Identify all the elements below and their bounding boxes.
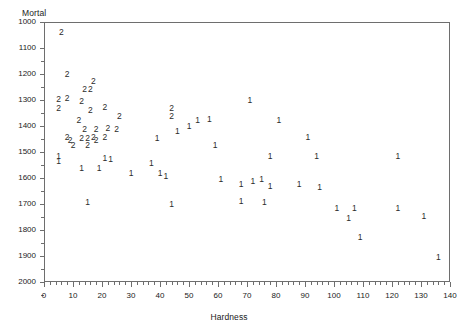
y-tick-mark-minor xyxy=(41,269,44,270)
x-tick-mark xyxy=(102,282,103,287)
x-tick-label: 130 xyxy=(406,291,436,300)
data-point-marker: 1 xyxy=(335,203,340,212)
y-tick-label: 1700 xyxy=(4,199,36,208)
x-axis-title: Hardness xyxy=(0,312,458,322)
data-point-marker: 1 xyxy=(219,175,224,184)
data-point-marker: 2 xyxy=(79,97,84,106)
data-point-marker: 1 xyxy=(79,163,84,172)
x-tick-mark-minor xyxy=(288,282,289,285)
data-point-marker: 2 xyxy=(65,93,70,102)
data-point-marker: 1 xyxy=(259,175,264,184)
data-point-marker: 1 xyxy=(268,152,273,161)
y-tick-mark xyxy=(40,204,44,205)
data-point-marker: 2 xyxy=(79,133,84,142)
x-tick-mark-minor xyxy=(90,282,91,285)
data-point-marker: 2 xyxy=(117,111,122,120)
x-tick-mark xyxy=(392,282,393,287)
x-tick-mark-minor xyxy=(404,282,405,285)
x-tick-label: 120 xyxy=(377,291,407,300)
data-point-marker: 1 xyxy=(103,154,108,163)
x-tick-mark-minor xyxy=(85,282,86,285)
data-point-marker: 1 xyxy=(314,152,319,161)
x-tick-mark xyxy=(218,282,219,287)
data-point-marker: 1 xyxy=(395,203,400,212)
x-tick-mark-minor xyxy=(311,282,312,285)
x-tick-label: 40 xyxy=(145,291,175,300)
y-tick-mark-minor xyxy=(41,243,44,244)
data-point-marker: 1 xyxy=(149,159,154,168)
x-tick-mark-minor xyxy=(444,282,445,285)
data-point-marker: 1 xyxy=(352,204,357,213)
x-tick-mark xyxy=(44,282,45,287)
data-point-marker: 1 xyxy=(248,96,253,105)
x-tick-mark-minor xyxy=(369,282,370,285)
x-tick-mark-minor xyxy=(299,282,300,285)
x-tick-mark xyxy=(421,282,422,287)
y-tick-label: 1400 xyxy=(4,121,36,130)
x-tick-mark-minor xyxy=(357,282,358,285)
x-tick-label: 0 xyxy=(29,291,59,300)
data-point-marker: 2 xyxy=(103,103,108,112)
y-tick-mark xyxy=(40,22,44,23)
data-point-marker: 2 xyxy=(94,136,99,145)
x-tick-mark-minor xyxy=(148,282,149,285)
x-tick-label: 30 xyxy=(116,291,146,300)
data-point-marker: 1 xyxy=(277,115,282,124)
data-point-marker: 1 xyxy=(169,200,174,209)
x-tick-label: 50 xyxy=(174,291,204,300)
y-tick-mark xyxy=(40,256,44,257)
data-point-marker: 1 xyxy=(306,133,311,142)
data-point-marker: 1 xyxy=(239,197,244,206)
x-tick-mark-minor xyxy=(415,282,416,285)
y-tick-label: 1500 xyxy=(4,147,36,156)
y-tick-mark xyxy=(40,74,44,75)
x-tick-mark-minor xyxy=(380,282,381,285)
x-tick-label: 10 xyxy=(58,291,88,300)
data-point-marker: 1 xyxy=(422,212,427,221)
data-point-marker: 1 xyxy=(297,179,302,188)
y-tick-label: 1900 xyxy=(4,251,36,260)
y-tick-mark xyxy=(40,100,44,101)
data-point-marker: 1 xyxy=(195,115,200,124)
y-tick-label: 1100 xyxy=(4,43,36,52)
data-point-marker: 1 xyxy=(108,154,113,163)
data-point-marker: 1 xyxy=(56,157,61,166)
x-tick-mark-minor xyxy=(67,282,68,285)
x-tick-mark-minor xyxy=(79,282,80,285)
data-point-marker: 1 xyxy=(395,151,400,160)
x-tick-mark-minor xyxy=(340,282,341,285)
x-tick-mark-minor xyxy=(212,282,213,285)
x-tick-mark-minor xyxy=(96,282,97,285)
x-tick-mark-minor xyxy=(137,282,138,285)
x-tick-mark-minor xyxy=(346,282,347,285)
x-tick-mark-minor xyxy=(438,282,439,285)
y-tick-label: 2000 xyxy=(4,277,36,286)
x-tick-mark xyxy=(73,282,74,287)
x-tick-mark-minor xyxy=(172,282,173,285)
x-tick-mark xyxy=(450,282,451,287)
x-tick-mark-minor xyxy=(125,282,126,285)
y-tick-mark-minor xyxy=(41,61,44,62)
x-tick-label: 80 xyxy=(261,291,291,300)
data-point-marker: 2 xyxy=(76,115,81,124)
data-point-marker: 1 xyxy=(262,198,267,207)
x-tick-mark-minor xyxy=(166,282,167,285)
x-tick-mark-minor xyxy=(235,282,236,285)
data-point-marker: 1 xyxy=(268,182,273,191)
data-point-marker: 2 xyxy=(65,70,70,79)
x-tick-label: 20 xyxy=(87,291,117,300)
y-tick-mark xyxy=(40,152,44,153)
data-point-marker: 2 xyxy=(71,141,76,150)
x-tick-mark-minor xyxy=(224,282,225,285)
x-tick-mark-minor xyxy=(409,282,410,285)
y-tick-label: 1000 xyxy=(4,17,36,26)
y-tick-mark-minor xyxy=(41,165,44,166)
data-point-marker: 1 xyxy=(97,163,102,172)
x-tick-mark xyxy=(247,282,248,287)
x-tick-mark-minor xyxy=(293,282,294,285)
data-point-marker: 1 xyxy=(213,141,218,150)
x-tick-mark-minor xyxy=(114,282,115,285)
x-tick-mark-minor xyxy=(206,282,207,285)
x-tick-mark-minor xyxy=(259,282,260,285)
y-tick-mark xyxy=(40,126,44,127)
